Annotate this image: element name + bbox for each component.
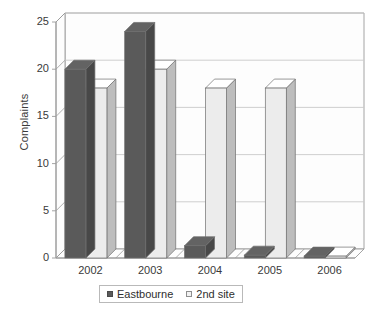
y-tick-label: 20 bbox=[25, 63, 49, 74]
x-tick-label: 2004 bbox=[180, 265, 240, 276]
bar-eastbourne-2002 bbox=[65, 60, 95, 258]
x-tick-label: 2003 bbox=[120, 265, 180, 276]
x-tick-label: 2005 bbox=[240, 265, 300, 276]
x-tick-label: 2006 bbox=[300, 265, 360, 276]
y-tick-label: 25 bbox=[25, 16, 49, 27]
bar-2nd-site-2005 bbox=[265, 79, 295, 258]
bar-2nd-site-2004 bbox=[206, 79, 236, 258]
bar-eastbourne-2003 bbox=[125, 22, 155, 258]
legend-swatch-icon bbox=[107, 291, 113, 297]
legend-entry-2nd-site: 2nd site bbox=[186, 288, 235, 300]
y-tick-label: 0 bbox=[25, 252, 49, 263]
legend-label: Eastbourne bbox=[117, 288, 173, 300]
y-tick-label: 10 bbox=[25, 158, 49, 169]
x-tick-label: 2002 bbox=[60, 265, 120, 276]
legend-entry-eastbourne: Eastbourne bbox=[107, 288, 173, 300]
legend-swatch-icon bbox=[186, 291, 192, 297]
legend-label: 2nd site bbox=[196, 288, 235, 300]
y-tick-label: 5 bbox=[25, 205, 49, 216]
complaints-bar-chart: Complaints 0510152025 200220032004200520… bbox=[0, 0, 376, 314]
chart-legend: Eastbourne 2nd site bbox=[99, 285, 243, 303]
y-tick-label: 15 bbox=[25, 110, 49, 121]
plot-left-wall bbox=[56, 13, 65, 258]
